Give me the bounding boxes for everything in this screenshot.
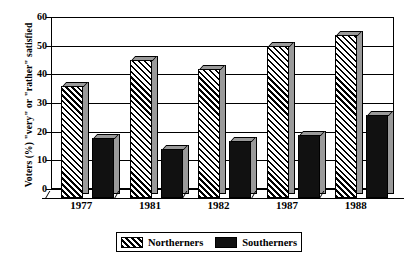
bar-southerners-1987: [298, 135, 320, 198]
bar-side-face: [251, 137, 257, 194]
legend-label-southerners: Southerners: [242, 237, 297, 248]
bar-side-face: [183, 145, 189, 194]
y-tick-label: 60: [25, 12, 47, 22]
legend-swatch-hatch-icon: [121, 237, 143, 248]
bar-southerners-1977: [92, 138, 114, 198]
bar-northerners-1982: [198, 69, 220, 198]
bar-southerners-1988: [366, 115, 388, 198]
bar-top-face: [268, 42, 295, 47]
x-tick-label-1987: 1987: [257, 199, 317, 211]
bar-side-face: [114, 134, 120, 194]
bar-side-face: [220, 65, 226, 194]
y-tick-mark: [46, 103, 51, 104]
y-tick-mark: [46, 132, 51, 133]
bar-front-face: [161, 149, 183, 198]
bar-front-face: [130, 60, 152, 198]
bar-side-face: [152, 56, 158, 194]
bar-northerners-1988: [335, 35, 357, 198]
bar-side-face: [357, 31, 363, 194]
plot-area: [51, 17, 403, 198]
bar-top-face: [93, 134, 120, 139]
legend-swatch-solid-icon: [215, 237, 237, 248]
bar-side-face: [83, 82, 89, 194]
bar-front-face: [298, 135, 320, 198]
bar-front-face: [335, 35, 357, 198]
bar-southerners-1981: [161, 149, 183, 198]
bar-top-face: [130, 56, 157, 61]
bar-front-face: [198, 69, 220, 198]
y-tick-label: 10: [25, 155, 47, 165]
bar-side-face: [289, 42, 295, 194]
bar-front-face: [61, 86, 83, 198]
x-tick-label-1988: 1988: [326, 199, 386, 211]
y-tick-label: 20: [25, 127, 47, 137]
legend: Northerners Southerners: [116, 232, 302, 252]
bars-layer: [51, 17, 403, 198]
bar-top-face: [161, 145, 188, 150]
bar-front-face: [229, 141, 251, 198]
bar-top-face: [230, 137, 257, 142]
y-tick-label: 0: [25, 184, 47, 194]
bar-northerners-1981: [130, 60, 152, 198]
bar-southerners-1982: [229, 141, 251, 198]
legend-label-northerners: Northerners: [148, 237, 203, 248]
bar-top-face: [336, 31, 363, 36]
legend-item-northerners: Northerners: [121, 237, 203, 248]
bar-northerners-1977: [61, 86, 83, 198]
bar-chart: Voters (%) "very" or "rather" satisfied …: [0, 0, 413, 268]
bar-front-face: [92, 138, 114, 198]
bar-side-face: [388, 111, 394, 194]
y-tick-label: 50: [25, 41, 47, 51]
bar-side-face: [320, 131, 326, 194]
legend-item-southerners: Southerners: [215, 237, 297, 248]
x-tick-label-1977: 1977: [51, 199, 111, 211]
y-tick-mark: [46, 46, 51, 47]
x-tick-label-1981: 1981: [120, 199, 180, 211]
bar-front-face: [366, 115, 388, 198]
y-tick-label: 30: [25, 98, 47, 108]
y-tick-mark: [46, 160, 51, 161]
x-tick-label-1982: 1982: [189, 199, 249, 211]
y-tick-mark: [46, 189, 51, 190]
bar-northerners-1987: [267, 46, 289, 198]
bar-top-face: [299, 131, 326, 136]
y-tick-mark: [46, 74, 51, 75]
bar-front-face: [267, 46, 289, 198]
y-tick-label: 40: [25, 69, 47, 79]
y-tick-mark: [46, 17, 51, 18]
